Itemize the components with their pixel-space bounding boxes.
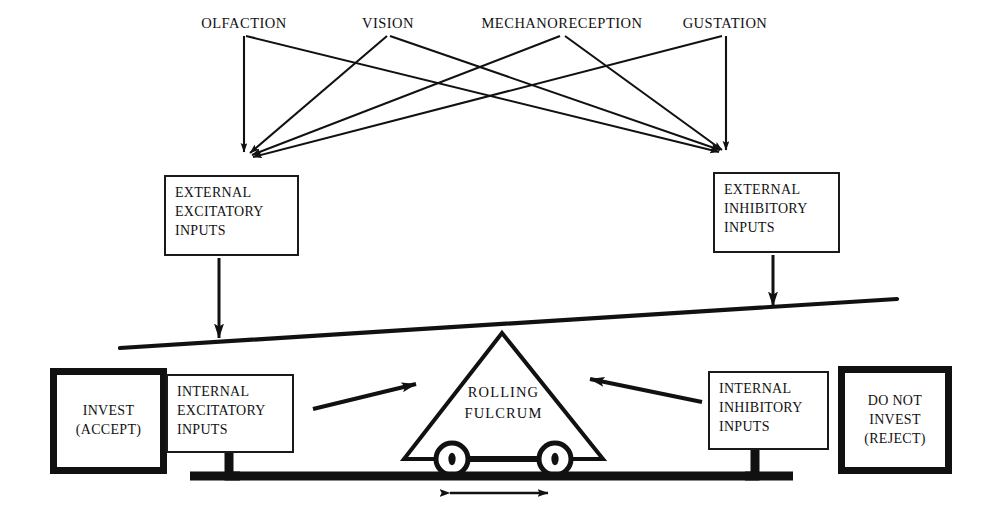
external-excitatory-inputs-label: EXTERNAL EXCITATORY INPUTS (175, 184, 264, 240)
invest-accept-label: INVEST (ACCEPT) (57, 402, 160, 440)
external-inhibitory-inputs-box: EXTERNAL INHIBITORY INPUTS (713, 172, 840, 253)
line-olfaction-to-inhibitory (246, 36, 719, 152)
line-vision-to-inhibitory (390, 36, 720, 150)
diagram-canvas: OLFACTION VISION MECHANORECEPTION GUSTAT… (0, 0, 1003, 511)
do-not-invest-reject-label: DO NOT INVEST (REJECT) (845, 392, 945, 448)
line-mechanoreception-to-excitatory (252, 36, 560, 155)
do-not-invest-reject-box: DO NOT INVEST (REJECT) (838, 366, 952, 474)
internal-inhibitory-inputs-label: INTERNAL INHIBITORY INPUTS (719, 380, 803, 436)
external-inhibitory-inputs-label: EXTERNAL INHIBITORY INPUTS (724, 181, 808, 237)
sensory-convergence-lines (244, 36, 726, 157)
wheel-right-hub (551, 453, 558, 465)
internal-excitatory-inputs-box: INTERNAL EXCITATORY INPUTS (166, 374, 294, 453)
sensory-label-mechanoreception: MECHANORECEPTION (481, 15, 642, 32)
arrow-internal-excitatory-to-fulcrum (313, 384, 416, 409)
invest-accept-box: INVEST (ACCEPT) (50, 368, 167, 474)
internal-excitatory-inputs-label: INTERNAL EXCITATORY INPUTS (177, 383, 266, 439)
external-excitatory-inputs-box: EXTERNAL EXCITATORY INPUTS (164, 175, 299, 256)
internal-inhibitory-inputs-box: INTERNAL INHIBITORY INPUTS (708, 371, 829, 450)
sensory-label-vision: VISION (362, 15, 414, 32)
arrow-internal-inhibitory-to-fulcrum (590, 379, 702, 402)
sensory-label-olfaction: OLFACTION (201, 15, 287, 32)
sensory-label-gustation: GUSTATION (683, 15, 768, 32)
wheel-left-hub (448, 453, 455, 465)
rolling-fulcrum-label: ROLLING FULCRUM (404, 382, 603, 424)
